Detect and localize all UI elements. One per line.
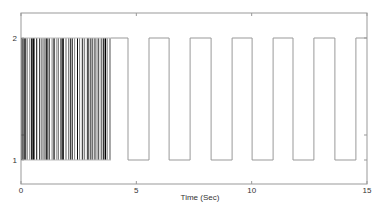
x-tick-label: 10 [247, 186, 256, 195]
y-tick-label: 2 [13, 34, 18, 43]
chart-plot: 05101512 Time (Sec) [0, 0, 385, 206]
square-wave [111, 38, 367, 160]
signal-line [22, 38, 367, 160]
x-tick-label: 15 [363, 186, 372, 195]
x-axis-label: Time (Sec) [181, 193, 220, 202]
axes-box [21, 13, 367, 184]
axis-ticks [21, 13, 367, 184]
x-tick-label: 0 [19, 186, 24, 195]
x-tick-label: 5 [134, 186, 139, 195]
y-tick-label: 1 [13, 156, 18, 165]
